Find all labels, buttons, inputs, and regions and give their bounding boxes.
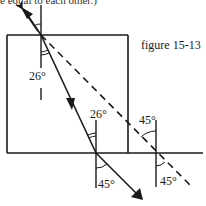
refracted-ray xyxy=(41,35,96,153)
angle-label-dashed-bottom: 45° xyxy=(160,174,177,188)
angle-label-emergent: 45° xyxy=(98,177,115,191)
angle-label-dashed-top: 45° xyxy=(139,113,156,127)
incident-arrowhead-icon xyxy=(21,7,33,19)
angle-label-exit-inside: 26° xyxy=(90,107,107,121)
dashed-undeviated-ray xyxy=(41,35,190,185)
angle-label-entry: 26° xyxy=(29,69,46,83)
refraction-diagram: 26° 26° 45° 45° 45° figure 15-13 xyxy=(0,0,206,206)
diagram: e equal to each other.) xyxy=(0,0,206,206)
glass-block xyxy=(7,35,128,153)
figure-label: figure 15-13 xyxy=(141,38,201,52)
